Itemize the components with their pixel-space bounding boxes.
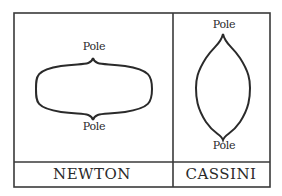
newton-earth-shape bbox=[36, 58, 152, 120]
newton-top-pole-label: Pole bbox=[83, 40, 105, 53]
newton-caption: NEWTON bbox=[53, 165, 131, 183]
outer-frame bbox=[14, 13, 270, 187]
newton-bottom-pole-label: Pole bbox=[83, 120, 105, 133]
cassini-earth-shape bbox=[196, 34, 250, 140]
cassini-caption: CASSINI bbox=[185, 165, 256, 183]
cassini-bottom-pole-label: Pole bbox=[213, 139, 235, 152]
cassini-top-pole-label: Pole bbox=[213, 18, 235, 31]
